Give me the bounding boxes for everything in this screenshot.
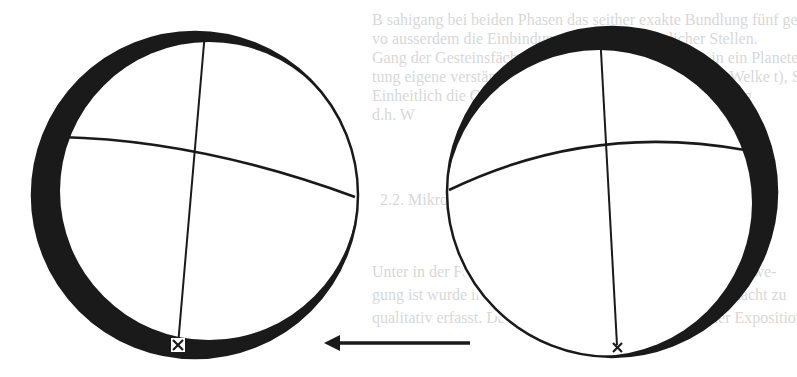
left-arrow-icon [324, 335, 470, 351]
left-net-inner [60, 42, 358, 340]
projection-figure [0, 0, 797, 377]
right-net-inner [446, 50, 752, 356]
right-projection-net [446, 27, 777, 357]
left-projection-net [32, 32, 358, 358]
